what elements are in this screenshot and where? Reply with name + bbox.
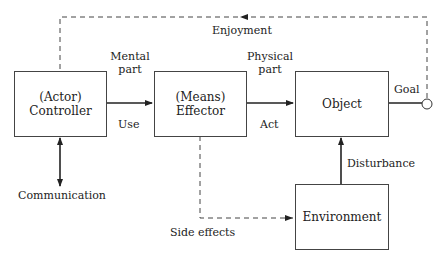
controller-label: Controller <box>29 104 91 118</box>
effector-role: (Means) <box>176 90 226 104</box>
side-effects-line <box>200 136 293 218</box>
mental-part-line2: part <box>108 63 152 76</box>
goal-label: Goal <box>394 83 420 96</box>
act-label: Act <box>260 118 279 131</box>
environment-box: Environment <box>295 184 389 250</box>
effector-label: Effector <box>176 104 225 118</box>
use-label: Use <box>118 118 139 131</box>
arrow-left-icon <box>240 14 248 20</box>
physical-part-line1: Physical <box>246 50 294 63</box>
mental-part-label: Mental part <box>108 50 152 76</box>
mental-part-line1: Mental <box>108 50 152 63</box>
goal-circle-icon <box>422 99 432 109</box>
enjoyment-label: Enjoyment <box>212 24 272 37</box>
communication-label: Communication <box>18 189 106 202</box>
physical-part-line2: part <box>246 63 294 76</box>
controller-box: (Actor) Controller <box>14 71 107 137</box>
physical-part-label: Physical part <box>246 50 294 76</box>
disturbance-label: Disturbance <box>347 157 415 170</box>
side-effects-label: Side effects <box>170 226 235 239</box>
effector-box: (Means) Effector <box>154 71 247 137</box>
arrow-right-icon <box>285 215 293 221</box>
object-box: Object <box>295 71 389 137</box>
object-label: Object <box>322 97 362 111</box>
controller-role: (Actor) <box>39 90 82 104</box>
environment-label: Environment <box>303 210 382 224</box>
